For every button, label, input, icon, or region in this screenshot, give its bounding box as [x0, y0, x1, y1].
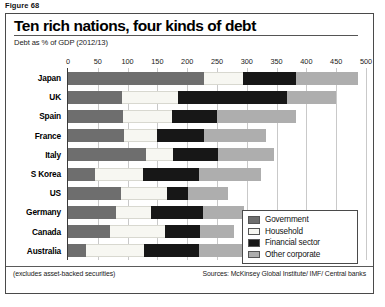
legend-item[interactable]: Government: [248, 214, 353, 226]
bar-segment[interactable]: [68, 110, 123, 123]
bar-segment[interactable]: [121, 187, 167, 200]
bar-segment[interactable]: [157, 129, 203, 142]
x-tick-label: 0: [66, 57, 70, 66]
bar-segment[interactable]: [68, 91, 122, 104]
chart-panel: Ten rich nations, four kinds of debt Deb…: [5, 13, 374, 294]
bar-row: S Korea: [6, 166, 375, 182]
bar-segment[interactable]: [203, 206, 244, 219]
bar-segment[interactable]: [68, 225, 110, 238]
legend-label: Household: [265, 227, 303, 236]
stacked-bar[interactable]: [68, 244, 246, 257]
bar-segment[interactable]: [95, 168, 143, 181]
bar-segment[interactable]: [68, 244, 86, 257]
bar-segment[interactable]: [68, 187, 121, 200]
bar-segment[interactable]: [167, 187, 188, 200]
category-label: Italy: [6, 147, 66, 163]
x-tick-label: 150: [151, 57, 163, 66]
x-tick-label: 200: [181, 57, 193, 66]
bar-segment[interactable]: [68, 168, 95, 181]
category-label: S Korea: [6, 166, 66, 182]
legend-swatch-household: [248, 228, 260, 236]
chart-subtitle: Debt as % of GDP (2012/13): [14, 38, 365, 47]
page-title: Ten rich nations, four kinds of debt: [14, 17, 365, 34]
stacked-bar[interactable]: [68, 225, 234, 238]
stacked-bar[interactable]: [68, 148, 274, 161]
bar-segment[interactable]: [68, 129, 124, 142]
legend-swatch-financial: [248, 239, 260, 247]
category-label: France: [6, 128, 66, 144]
x-tick-label: 100: [122, 57, 134, 66]
category-label: UK: [6, 89, 66, 105]
title-divider: [14, 35, 358, 36]
category-label: US: [6, 185, 66, 201]
bar-segment[interactable]: [287, 91, 336, 104]
bar-segment[interactable]: [146, 148, 173, 161]
bar-segment[interactable]: [200, 225, 234, 238]
footer-divider: [6, 266, 373, 267]
bar-segment[interactable]: [199, 244, 246, 257]
legend-item[interactable]: Household: [248, 226, 353, 238]
x-tick-label: 500: [360, 57, 372, 66]
x-tick-label: 400: [300, 57, 312, 66]
x-axis-tick-labels: 050100150200250300350400450500: [6, 57, 375, 68]
bar-segment[interactable]: [204, 72, 243, 85]
bar-segment[interactable]: [151, 206, 203, 219]
bar-segment[interactable]: [68, 148, 146, 161]
bar-row: Spain: [6, 108, 375, 124]
legend-swatch-government: [248, 216, 260, 224]
stacked-bar[interactable]: [68, 110, 296, 123]
x-tick-label: 250: [211, 57, 223, 66]
x-tick-label: 300: [241, 57, 253, 66]
bar-segment[interactable]: [86, 244, 144, 257]
x-tick-label: 450: [330, 57, 342, 66]
chart-legend: GovernmentHouseholdFinancial sectorOther…: [242, 210, 358, 264]
bar-segment[interactable]: [165, 225, 201, 238]
bar-segment[interactable]: [123, 110, 172, 123]
bar-segment[interactable]: [217, 110, 296, 123]
title-block: Ten rich nations, four kinds of debt Deb…: [6, 14, 373, 47]
bar-row: UK: [6, 89, 375, 105]
category-label: Spain: [6, 108, 66, 124]
figure-caption: Figure 68: [5, 1, 39, 10]
legend-label: Government: [265, 215, 309, 224]
bar-segment[interactable]: [199, 168, 262, 181]
bar-segment[interactable]: [143, 168, 198, 181]
bar-segment[interactable]: [68, 72, 204, 85]
bar-segment[interactable]: [144, 244, 198, 257]
x-tick-label: 350: [271, 57, 283, 66]
bar-segment[interactable]: [110, 225, 165, 238]
bar-segment[interactable]: [204, 129, 266, 142]
bar-segment[interactable]: [116, 206, 151, 219]
bar-segment[interactable]: [68, 206, 116, 219]
footnote: (excludes asset-backed securities): [13, 270, 115, 277]
legend-swatch-corporate: [248, 251, 260, 259]
stacked-bar[interactable]: [68, 72, 358, 85]
category-label: Australia: [6, 243, 66, 259]
bar-segment[interactable]: [172, 110, 217, 123]
bar-row: Japan: [6, 70, 375, 86]
stacked-bar[interactable]: [68, 187, 228, 200]
sources-note: Sources: McKinsey Global Institute/ IMF/…: [203, 270, 367, 277]
bar-segment[interactable]: [173, 148, 218, 161]
bar-segment[interactable]: [188, 187, 228, 200]
bar-row: Italy: [6, 147, 375, 163]
category-label: Canada: [6, 224, 66, 240]
legend-item[interactable]: Other corporate: [248, 249, 353, 261]
bar-row: US: [6, 185, 375, 201]
legend-item[interactable]: Financial sector: [248, 237, 353, 249]
stacked-bar[interactable]: [68, 91, 336, 104]
bar-row: France: [6, 128, 375, 144]
bar-segment[interactable]: [243, 72, 296, 85]
bar-segment[interactable]: [296, 72, 359, 85]
category-label: Germany: [6, 204, 66, 220]
category-label: Japan: [6, 70, 66, 86]
bar-segment[interactable]: [122, 91, 179, 104]
stacked-bar[interactable]: [68, 168, 261, 181]
x-tick-label: 50: [94, 57, 102, 66]
stacked-bar[interactable]: [68, 206, 244, 219]
bar-segment[interactable]: [218, 148, 274, 161]
bar-segment[interactable]: [178, 91, 286, 104]
legend-label: Other corporate: [265, 250, 320, 259]
stacked-bar[interactable]: [68, 129, 266, 142]
bar-segment[interactable]: [124, 129, 157, 142]
